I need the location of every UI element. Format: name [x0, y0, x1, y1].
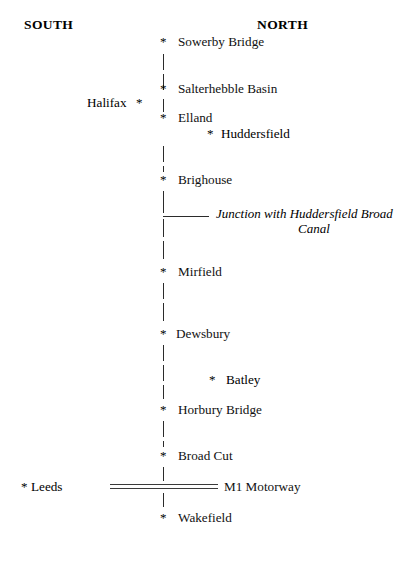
- stop-marker-dewsbury: *: [160, 327, 167, 340]
- motorway-crossing-line: [110, 484, 218, 489]
- canal-spine-segment: [163, 146, 164, 162]
- place-marker-leeds: *: [21, 480, 28, 493]
- stop-label-wakefield: Wakefield: [178, 511, 232, 525]
- canal-spine-segment: [163, 421, 164, 437]
- stop-label-elland: Elland: [178, 111, 212, 125]
- canal-spine-segment: [163, 283, 164, 299]
- canal-spine-segment: [163, 303, 164, 321]
- junction-branch-line: [163, 216, 209, 217]
- stop-marker-wakefield: *: [160, 511, 167, 524]
- stop-label-sowerby-bridge: Sowerby Bridge: [178, 35, 264, 49]
- stop-label-horbury-bridge: Horbury Bridge: [178, 403, 262, 417]
- stop-marker-brighouse: *: [160, 173, 167, 186]
- stop-marker-horbury-bridge: *: [160, 403, 167, 416]
- stop-label-dewsbury: Dewsbury: [176, 327, 230, 341]
- place-label-huddersfield: Huddersfield: [221, 127, 290, 141]
- place-label-batley: Batley: [226, 373, 260, 387]
- stop-marker-broad-cut: *: [160, 449, 167, 462]
- place-label-leeds: Leeds: [31, 480, 63, 494]
- canal-spine-segment: [163, 345, 164, 361]
- compass-heading-south: SOUTH: [24, 17, 73, 33]
- stop-marker-mirfield: *: [160, 265, 167, 278]
- junction-label: Junction with Huddersfield Broad Canal: [216, 206, 412, 236]
- canal-spine-segment: [163, 241, 164, 259]
- stop-label-brighouse: Brighouse: [178, 173, 232, 187]
- stop-label-mirfield: Mirfield: [178, 265, 222, 279]
- place-marker-huddersfield: *: [207, 127, 214, 140]
- canal-spine-segment: [163, 191, 164, 213]
- canal-spine-segment: [163, 385, 164, 399]
- stop-label-salterhebble-basin: Salterhebble Basin: [178, 82, 277, 96]
- junction-label-line2: Canal: [216, 221, 412, 236]
- canal-spine-segment: [163, 493, 164, 507]
- canal-spine-segment: [163, 467, 164, 481]
- stop-label-broad-cut: Broad Cut: [178, 449, 233, 463]
- place-marker-halifax: *: [136, 96, 143, 109]
- compass-heading-north: NORTH: [257, 17, 308, 33]
- canal-spine-segment: [163, 441, 164, 447]
- canal-spine-segment: [163, 54, 164, 70]
- canal-spine-segment: [163, 365, 164, 381]
- canal-route-diagram: SOUTH NORTH * Sowerby Bridge * Salterheb…: [0, 0, 416, 565]
- junction-label-line1: Junction with Huddersfield Broad: [216, 206, 412, 221]
- place-marker-batley: *: [209, 373, 216, 386]
- canal-spine-segment: [163, 219, 164, 237]
- stop-marker-salterhebble-basin: *: [160, 82, 167, 95]
- motorway-label: M1 Motorway: [224, 480, 301, 494]
- place-label-halifax: Halifax: [87, 96, 127, 110]
- stop-marker-elland: *: [160, 111, 167, 124]
- stop-marker-sowerby-bridge: *: [160, 35, 167, 48]
